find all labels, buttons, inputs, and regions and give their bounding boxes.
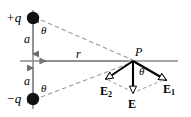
radial-distance-label: r xyxy=(76,48,81,60)
field-e1-subscript: 1 xyxy=(171,88,175,97)
field-vector-e1 xyxy=(133,61,166,80)
distance-a-lower-label: a xyxy=(24,75,30,87)
distance-a-upper-label: a xyxy=(24,33,30,45)
negative-charge-label: −q xyxy=(6,92,21,105)
field-e1-symbol: E xyxy=(163,82,171,96)
field-e2-symbol: E xyxy=(100,84,108,98)
theta-at-point-label: θ xyxy=(139,66,144,77)
field-e2-subscript: 2 xyxy=(108,90,112,99)
theta-upper-label: θ xyxy=(41,25,46,36)
field-vector-e1-label: E1 xyxy=(163,83,175,97)
theta-lower-label: θ xyxy=(41,83,46,94)
positive-charge-label: +q xyxy=(6,11,21,24)
dashed-line-positive-to-p xyxy=(41,20,133,60)
point-p-label: P xyxy=(135,46,142,58)
field-vector-e2-label: E2 xyxy=(100,85,112,99)
negative-charge-dot xyxy=(27,93,39,105)
parallelogram-dash-right xyxy=(135,80,163,92)
field-vector-resultant-label: E xyxy=(128,98,136,110)
dashed-line-negative-to-p xyxy=(41,62,133,97)
dipole-field-figure: +q −q a a r P θ θ θ E1 E2 E xyxy=(0,0,191,117)
figure-vector-canvas xyxy=(0,0,191,117)
field-vector-e2 xyxy=(106,61,133,79)
positive-charge-dot xyxy=(27,12,39,24)
